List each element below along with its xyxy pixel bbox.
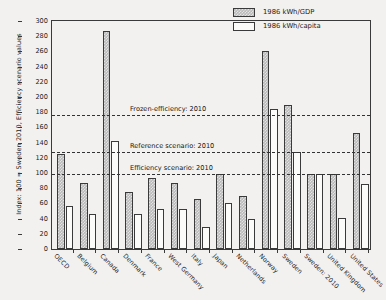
bar-capita [225, 203, 233, 249]
x-tick-label: Norway [258, 252, 280, 274]
x-tick-label: United Kingdom [326, 252, 368, 294]
bar-gdp [239, 196, 247, 249]
y-tick-label: 120 [22, 154, 48, 162]
legend-label-gdp: 1986 kWh/GDP [263, 8, 314, 16]
bar-capita [157, 209, 165, 249]
x-tick-label: Belgium [76, 252, 100, 276]
bar-gdp [262, 51, 270, 249]
x-tick-label: OECD [53, 252, 71, 270]
y-tick-mark [18, 158, 22, 159]
x-tick-label: France [144, 252, 164, 272]
y-tick-label: 0 [22, 245, 48, 253]
reference-line [52, 152, 370, 153]
y-tick-mark [18, 249, 22, 250]
bar-gdp [125, 192, 133, 249]
y-tick-label: 300 [22, 17, 48, 25]
reference-line-label: Frozen-efficiency: 2010 [130, 105, 206, 113]
bar-capita [293, 152, 301, 249]
chart-root: Index: 100 = Sweden 2010, Efficiency sce… [0, 0, 386, 300]
reference-line-label: Efficiency scenario: 2010 [130, 164, 213, 172]
y-tick-mark [18, 203, 22, 204]
reference-line [52, 174, 370, 175]
y-tick-label: 180 [22, 108, 48, 116]
y-tick-mark [18, 36, 22, 37]
x-tick-label: Japan [212, 252, 230, 270]
y-tick-mark [18, 188, 22, 189]
y-tick-mark [18, 112, 22, 113]
y-tick-mark [18, 219, 22, 220]
bar-gdp [194, 199, 202, 249]
y-tick-label: 140 [22, 139, 48, 147]
x-tick-label: Canada [99, 252, 121, 274]
y-tick-label: 220 [22, 78, 48, 86]
y-tick-mark [18, 97, 22, 98]
bar-capita [134, 214, 142, 249]
y-tick-label: 280 [22, 32, 48, 40]
y-tick-label: 80 [22, 184, 48, 192]
reference-line [52, 115, 370, 116]
y-tick-label: 200 [22, 93, 48, 101]
bar-capita [248, 219, 256, 249]
bar-gdp [307, 174, 315, 249]
bar-gdp [103, 31, 111, 249]
bar-capita [270, 109, 278, 249]
bar-capita [338, 218, 346, 249]
reference-line-label: Reference scenario: 2010 [130, 142, 214, 150]
y-tick-mark [18, 173, 22, 174]
bar-gdp [330, 174, 338, 249]
y-tick-label: 20 [22, 230, 48, 238]
y-tick-mark [18, 51, 22, 52]
bar-gdp [57, 154, 65, 249]
y-tick-label: 160 [22, 123, 48, 131]
bar-capita [66, 206, 74, 249]
y-tick-label: 40 [22, 215, 48, 223]
y-tick-label: 260 [22, 47, 48, 55]
y-tick-mark [18, 21, 22, 22]
bar-capita [361, 184, 369, 249]
y-tick-mark [18, 67, 22, 68]
bar-gdp [171, 183, 179, 249]
bar-gdp [148, 178, 156, 249]
y-tick-label: 100 [22, 169, 48, 177]
bar-capita [179, 209, 187, 249]
bar-gdp [284, 105, 292, 249]
bar-capita [111, 141, 119, 249]
bar-capita [89, 214, 97, 249]
x-tick-label: Sweden [281, 252, 304, 275]
x-axis-labels: OECDBelgiumCanadaDenmarkFranceWest Germa… [51, 252, 381, 300]
y-tick-label: 60 [22, 199, 48, 207]
legend-swatch-gdp-icon [233, 8, 255, 17]
y-tick-mark [18, 234, 22, 235]
bar-gdp [80, 183, 88, 249]
y-tick-label: 240 [22, 63, 48, 71]
x-tick-label: Italy [190, 252, 205, 267]
bar-capita [316, 174, 324, 249]
bars-layer [52, 21, 370, 249]
y-tick-mark [18, 127, 22, 128]
y-tick-mark [18, 82, 22, 83]
bar-gdp [216, 174, 224, 249]
bar-capita [202, 227, 210, 249]
plot-area: Frozen-efficiency: 2010Reference scenari… [51, 20, 371, 250]
y-tick-mark [18, 143, 22, 144]
legend-item-gdp: 1986 kWh/GDP [233, 6, 378, 18]
